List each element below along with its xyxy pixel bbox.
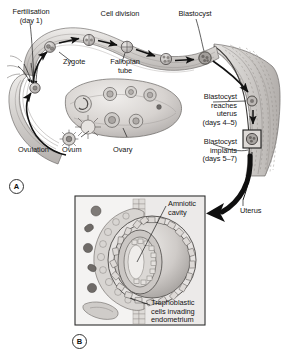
stage-two-cell: [83, 34, 94, 45]
label-blastocyst: Blastocyst: [168, 10, 222, 19]
label-cell-division: Cell division: [90, 10, 150, 19]
label-blastocyst-implants: Blastocyst implants (days 5–7): [176, 138, 237, 164]
stage-four-cell: [121, 41, 133, 53]
panel-marker-b: B: [72, 334, 87, 349]
blastocyst-in-cavity: [247, 96, 257, 106]
label-uterus: Uterus: [240, 207, 261, 216]
label-blastocyst-reaches-uterus: Blastocyst reaches uterus (days 4–5): [176, 93, 237, 127]
stage-blastocyst: [199, 52, 211, 64]
figure-root: Fertilisation (day 1) Cell division Blas…: [0, 0, 281, 354]
stage-zygote: [45, 42, 56, 53]
label-amniotic-cavity: Amniotic cavity: [168, 200, 196, 217]
label-ovum: Ovum: [62, 146, 82, 155]
panel-marker-a: A: [9, 179, 24, 194]
reproductive-tract-illustration: [0, 0, 281, 354]
zygote-cell: [30, 83, 40, 93]
corpus-luteum: [75, 115, 101, 139]
panel-a-anatomy: [7, 28, 280, 206]
label-zygote: Zygote: [63, 58, 85, 67]
stage-morula: [160, 53, 171, 64]
inner-cell-mass: [118, 230, 162, 294]
label-ovary: Ovary: [113, 146, 132, 155]
implantation-site-box: [243, 130, 261, 148]
label-fallopian-tube: Fallopian tube: [103, 58, 147, 75]
label-ovulation: Ovulation: [18, 146, 49, 155]
label-fertilisation: Fertilisation (day 1): [2, 8, 60, 25]
label-trophoblastic-cells: Trophoblastic cells invading endometrium: [151, 299, 195, 325]
ovary: [65, 79, 181, 139]
